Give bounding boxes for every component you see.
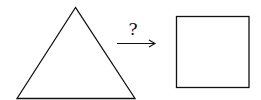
question-mark-label: ?: [128, 19, 137, 39]
square-shape: [177, 17, 250, 88]
arrow-icon: [117, 40, 155, 47]
triangle-shape: [17, 8, 135, 99]
diagram-canvas: ?: [0, 0, 261, 100]
